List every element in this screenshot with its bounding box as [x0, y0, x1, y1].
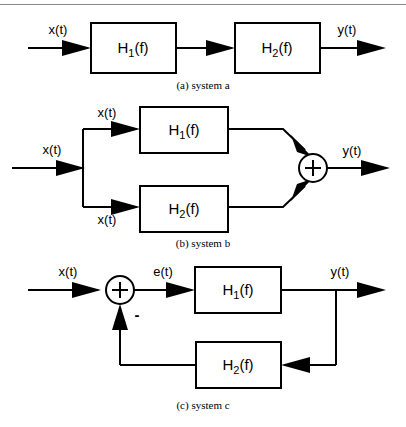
diagram-system-c: x(t) e(t) H1(f) y(t) H2(f) — [28, 264, 386, 412]
arrowhead-feedback-into-sum-c — [112, 304, 128, 330]
label-output-c: y(t) — [331, 264, 350, 279]
arrowhead-into-sum-c — [72, 282, 101, 298]
block-h1-c-arg: (f) — [239, 281, 253, 298]
figure-canvas: x(t) H1(f) H2(f) y(t) (a) system a x(t) — [0, 0, 406, 427]
label-output-a: y(t) — [338, 22, 357, 37]
arrowhead-split-b — [56, 160, 85, 176]
block-h2-c-arg: (f) — [239, 356, 253, 373]
caption-system-a: (a) system a — [176, 79, 229, 92]
arrowhead-into-h1-c — [166, 282, 195, 298]
label-output-b: y(t) — [343, 143, 362, 158]
arrowhead-output-b — [361, 160, 390, 176]
block-h2-a-base: H — [261, 39, 272, 56]
block-h1-b-arg: (f) — [185, 121, 199, 138]
arrowhead-output-a — [357, 40, 386, 56]
label-error-c: e(t) — [153, 264, 173, 279]
label-input-b: x(t) — [43, 142, 62, 157]
block-h2-c-base: H — [222, 356, 233, 373]
label-input-a: x(t) — [49, 22, 68, 37]
label-branch-top-b: x(t) — [98, 105, 117, 120]
diagram-system-a: x(t) H1(f) H2(f) y(t) (a) system a — [28, 22, 386, 92]
diagram-system-b: x(t) x(t) x(t) H1(f) H2(f) — [12, 105, 390, 250]
arrowhead-into-h1-a — [62, 40, 91, 56]
label-input-c: x(t) — [59, 264, 78, 279]
arrowhead-output-c — [357, 282, 386, 298]
arrowhead-into-h1-b — [111, 121, 140, 137]
caption-system-c: (c) system c — [176, 399, 229, 412]
arrowhead-into-h2-c — [281, 357, 310, 373]
block-h1-b-base: H — [168, 121, 179, 138]
block-h1-a-arg: (f) — [134, 39, 148, 56]
arrowhead-into-h2-a — [206, 40, 235, 56]
caption-system-b: (b) system b — [176, 237, 231, 250]
block-h1-c-base: H — [222, 281, 233, 298]
block-h2-b-arg: (f) — [185, 200, 199, 217]
label-branch-bottom-b: x(t) — [98, 212, 117, 227]
block-h2-b-base: H — [168, 200, 179, 217]
block-h2-a-arg: (f) — [278, 39, 292, 56]
label-feedback-sign-c: - — [135, 306, 140, 323]
block-h1-a-base: H — [117, 39, 128, 56]
block-diagram-figure: x(t) H1(f) H2(f) y(t) (a) system a x(t) — [0, 0, 406, 427]
